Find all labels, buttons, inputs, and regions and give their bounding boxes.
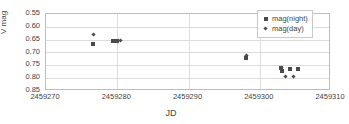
y-axis-tick-label: 0.55	[2, 9, 40, 17]
x-axis-tick-label: 2459280	[86, 93, 146, 101]
gridline-vertical	[117, 14, 118, 89]
legend-label-day: mag(day)	[272, 25, 304, 33]
gridline-horizontal	[46, 52, 329, 53]
data-point-day	[91, 33, 95, 37]
chart-legend: mag(night) mag(day)	[257, 10, 313, 38]
legend-item-day: mag(day)	[261, 24, 308, 33]
y-axis-tick-label: 0.70	[2, 48, 40, 56]
gridline-horizontal	[46, 65, 329, 66]
x-axis-title: JD	[0, 108, 342, 118]
data-point-night	[91, 42, 95, 46]
data-point-night	[288, 67, 292, 71]
data-point-night	[296, 67, 300, 71]
y-axis-tick-label: 0.60	[2, 22, 40, 30]
x-axis-tick-label: 2459300	[229, 93, 289, 101]
data-point-night	[280, 69, 284, 73]
legend-label-night: mag(night)	[272, 15, 308, 23]
y-axis-tick-label: 0.65	[2, 35, 40, 43]
square-marker-icon	[261, 17, 270, 21]
y-axis-tick-label: 0.75	[2, 60, 40, 68]
gridline-horizontal	[46, 78, 329, 79]
data-point-day	[118, 39, 122, 43]
gridline-vertical	[189, 14, 190, 89]
x-axis-tick-label: 2459310	[300, 93, 349, 101]
diamond-marker-icon	[261, 27, 270, 30]
y-axis-tick-label: 0.80	[2, 73, 40, 81]
gridline-horizontal	[46, 40, 329, 41]
x-axis-tick-label: 2459270	[15, 93, 75, 101]
legend-item-night: mag(night)	[261, 14, 308, 23]
x-axis-tick-label: 2459290	[158, 93, 218, 101]
